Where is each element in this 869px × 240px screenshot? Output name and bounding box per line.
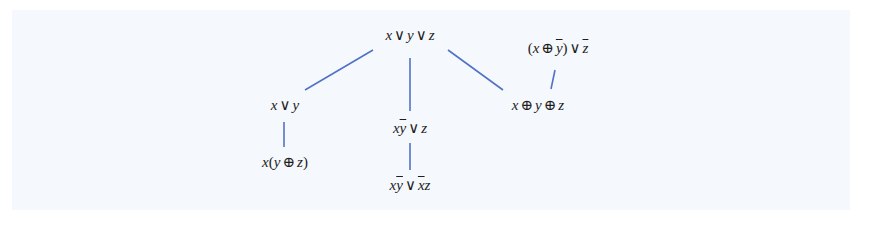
edge-root-xory (305, 50, 373, 90)
edge-xxorybar_or_zbar-xxor (551, 70, 555, 89)
edge-root-xxor (448, 50, 503, 90)
node-x-ybar-or-z: xy∨z (393, 119, 427, 137)
node-x-times-y-xor-z: x(y⊕z) (262, 153, 308, 171)
node-x-xor-ybar-or-zbar: (x⊕y)∨z (528, 39, 589, 57)
node-x-xor-y-xor-z: x⊕y⊕z (512, 96, 564, 114)
node-x-ybar-or-xbar-z: xy∨xz (390, 176, 431, 194)
node-x-or-y: x∨y (271, 96, 299, 114)
node-x-or-y-or-z: x∨y∨z (385, 26, 434, 44)
